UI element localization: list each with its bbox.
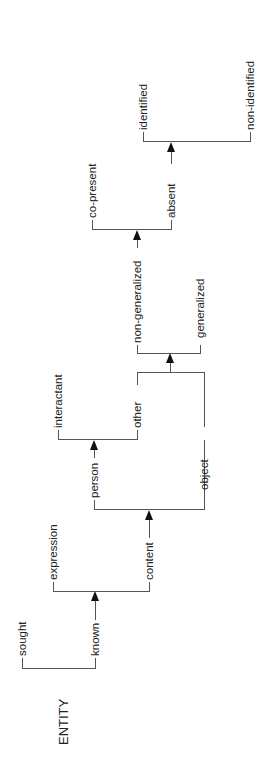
label-expression: expression [47,524,59,580]
tick-expression [53,582,54,591]
tick-person [94,500,95,509]
tick-known [95,658,96,668]
bracket-non-generalized [92,229,172,230]
join-other-object [137,372,205,373]
label-person: person [88,463,100,498]
connector-known [95,600,96,620]
connector-non-generalized [137,240,138,248]
connector-content [149,520,150,538]
tick-interactant [58,430,59,439]
tick-identified [143,132,144,141]
label-absent: absent [165,183,177,218]
bracket-known [53,591,150,592]
label-other: other [131,402,143,428]
tick-object-top [204,372,205,427]
tick-sought [22,658,23,668]
bracket-person [58,439,138,440]
tick-generalized [200,345,201,353]
bracket-content [94,509,205,510]
tick-co-present [92,220,93,229]
connector-absent [171,152,172,164]
arrow-absent [167,142,175,152]
label-identified: identified [137,84,149,130]
label-content: content [143,542,155,580]
system-network-diagram: ENTITY sought known expression content p… [0,0,266,775]
label-non-generalized: non-generalized [131,261,143,343]
label-co-present: co-present [86,164,98,218]
tick-non-generalized [137,345,138,353]
bracket-join [137,353,201,354]
tick-content [149,582,150,591]
label-object: object [198,459,210,490]
label-interactant: interactant [52,374,64,428]
root-label-entity: ENTITY [58,699,70,745]
bracket-absent [143,141,251,142]
arrow-person [90,440,98,450]
label-sought: sought [16,621,28,656]
tick-other-top [137,372,138,385]
arrow-content [145,510,153,520]
label-generalized: generalized [194,279,206,338]
arrow-known [91,591,99,601]
arrow-join [166,353,174,363]
arrow-non-generalized [133,230,141,240]
bracket-entity [22,668,96,669]
tick-non-identified [250,132,251,141]
label-known: known [89,623,101,656]
tick-other [137,430,138,439]
tick-absent [171,220,172,229]
label-non-identified: non-identified [244,61,256,130]
connector-person [94,450,95,458]
